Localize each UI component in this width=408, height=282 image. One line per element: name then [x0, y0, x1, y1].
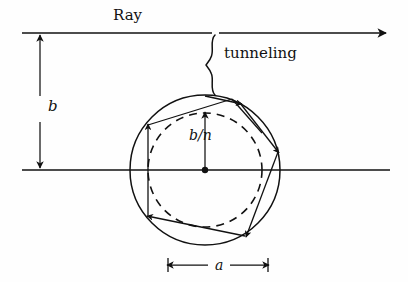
ray-label: Ray	[113, 8, 142, 23]
ray-chord-3	[147, 216, 245, 236]
sphere-center-dot	[202, 167, 208, 173]
impact-parameter-label: b	[48, 99, 58, 114]
ray-chord-5	[148, 99, 232, 125]
figure-canvas: Ray tunneling b b/n a	[0, 0, 408, 282]
tunneling-label: tunneling	[224, 46, 297, 61]
ray-chord-1	[240, 103, 279, 153]
sphere-diameter-label: a	[215, 258, 223, 272]
tunneling-brace	[206, 35, 215, 95]
internal-radius-label: b/n	[189, 128, 212, 142]
